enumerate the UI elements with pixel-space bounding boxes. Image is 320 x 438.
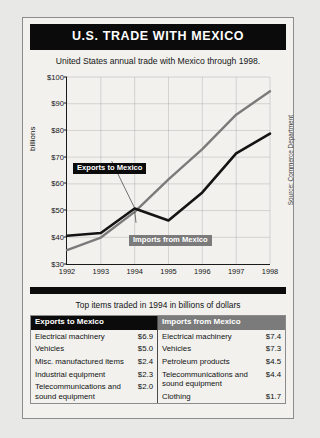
exports-item-name: Industrial equipment	[35, 370, 108, 380]
page-title: U.S. TRADE WITH MEXICO	[30, 24, 286, 50]
y-axis-tick-mark	[64, 130, 67, 131]
x-axis-tick-label: 1992	[59, 267, 75, 276]
table-row: Electrical machinery$6.9	[31, 330, 157, 343]
x-axis-tick-label: 1993	[93, 267, 109, 276]
exports-table-header: Exports to Mexico	[31, 316, 157, 330]
tables-caption: Top items traded in 1994 in billions of …	[30, 294, 286, 315]
imports-item-value: $7.3	[266, 344, 281, 354]
imports-item-name: Clothing	[162, 392, 194, 402]
table-row: Petroleum products$4.5	[158, 355, 285, 368]
exports-table: Exports to Mexico Electrical machinery$6…	[31, 316, 158, 403]
imports-item-value: $1.7	[266, 392, 281, 402]
table-row: Telecommunications and sound equipment$2…	[31, 381, 157, 403]
exports-item-value: $2.3	[138, 370, 153, 380]
table-row: Vehicles$5.0	[31, 343, 157, 356]
source-note: Source: Commerce Department	[287, 115, 294, 205]
imports-item-name: Electrical machinery	[162, 332, 235, 342]
y-axis-tick-mark	[64, 156, 67, 157]
y-axis-tick-mark	[64, 76, 67, 77]
plot-area: Exports to Mexico Imports from Mexico $3…	[66, 77, 270, 265]
imports-item-name: Telecommunications and sound equipment	[162, 370, 266, 389]
imports-table-header: Imports from Mexico	[158, 316, 285, 330]
y-axis-tick-label: $50	[51, 206, 64, 215]
y-axis-label: billions	[28, 126, 37, 150]
exports-item-value: $2.0	[138, 382, 153, 392]
y-axis-tick-label: $100	[47, 72, 64, 81]
infographic-panel: U.S. TRADE WITH MEXICO United States ann…	[22, 17, 294, 419]
line-chart: billions Source: Commerce Department Exp…	[30, 73, 286, 283]
y-axis-tick-label: $70	[51, 152, 64, 161]
exports-item-value: $6.9	[138, 332, 153, 342]
imports-item-value: $4.4	[266, 370, 281, 380]
exports-item-name: Vehicles	[35, 344, 67, 354]
y-axis-tick-label: $40	[51, 232, 64, 241]
subtitle: United States annual trade with Mexico t…	[30, 50, 286, 73]
table-row: Vehicles$7.3	[158, 343, 285, 356]
callout-leader-line	[135, 212, 136, 223]
y-axis-tick-mark	[64, 236, 67, 237]
x-axis-tick-label: 1997	[228, 267, 244, 276]
table-row: Industrial equipment$2.3	[31, 368, 157, 381]
exports-item-name: Telecommunications and sound equipment	[35, 382, 138, 401]
imports-item-name: Vehicles	[162, 344, 194, 354]
table-row: Clothing$1.7	[158, 390, 285, 403]
imports-item-value: $4.5	[266, 357, 281, 367]
exports-item-name: Misc. manufactured items	[35, 357, 127, 367]
y-axis-tick-mark	[64, 183, 67, 184]
table-row: Electrical machinery$7.4	[158, 330, 285, 343]
y-axis-tick-mark	[64, 103, 67, 104]
imports-item-name: Petroleum products	[162, 357, 233, 367]
table-row: Misc. manufactured items$2.4	[31, 355, 157, 368]
y-axis-tick-label: $60	[51, 179, 64, 188]
series-label-exports: Exports to Mexico	[73, 163, 146, 175]
exports-item-value: $2.4	[138, 357, 153, 367]
top-items-tables: Exports to Mexico Electrical machinery$6…	[30, 315, 286, 404]
exports-item-value: $5.0	[138, 344, 153, 354]
x-axis-tick-label: 1996	[194, 267, 210, 276]
section-divider	[30, 287, 286, 294]
x-axis-tick-label: 1994	[126, 267, 142, 276]
series-label-imports: Imports from Mexico	[129, 235, 212, 247]
y-axis-tick-mark	[64, 210, 67, 211]
y-axis-tick-mark	[64, 263, 67, 264]
exports-item-name: Electrical machinery	[35, 332, 108, 342]
table-row: Telecommunications and sound equipment$4…	[158, 368, 285, 390]
imports-table: Imports from Mexico Electrical machinery…	[158, 316, 285, 403]
y-axis-tick-label: $80	[51, 126, 64, 135]
imports-item-value: $7.4	[266, 332, 281, 342]
y-axis-tick-label: $90	[51, 99, 64, 108]
x-axis-tick-label: 1995	[160, 267, 176, 276]
x-axis-tick-label: 1998	[262, 267, 278, 276]
